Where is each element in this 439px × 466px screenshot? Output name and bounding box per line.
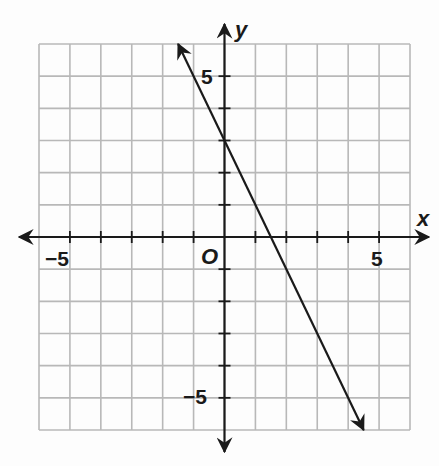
y-tick-label-neg5: −5: [183, 385, 207, 408]
axes: [19, 24, 429, 452]
coordinate-plane: x y O −5 5 5 −5: [0, 0, 439, 466]
x-axis-label: x: [416, 206, 430, 231]
y-axis-label: y: [234, 17, 249, 42]
x-tick-label-5: 5: [371, 247, 383, 270]
y-tick-label-5: 5: [201, 65, 213, 88]
plot-svg: x y O −5 5 5 −5: [0, 0, 439, 466]
x-tick-label-neg5: −5: [45, 247, 69, 270]
origin-label: O: [201, 244, 218, 269]
